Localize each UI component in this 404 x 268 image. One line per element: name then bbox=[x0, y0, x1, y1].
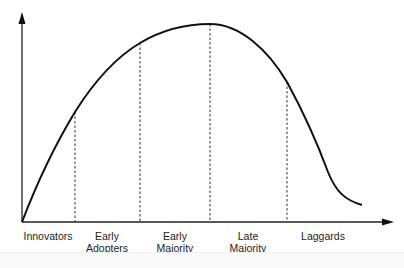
segment-label-late-majority: Late Majority bbox=[213, 230, 283, 254]
segment-label-early-adopters: Early Adopters bbox=[72, 230, 142, 254]
segment-label-laggards: Laggards bbox=[288, 230, 358, 242]
segment-label-early-majority: Early Majority bbox=[140, 230, 210, 254]
segment-label-line: Early bbox=[72, 230, 142, 242]
bottom-margin bbox=[0, 252, 404, 268]
segment-label-line: Early bbox=[140, 230, 210, 242]
x-axis-arrow-icon bbox=[382, 219, 394, 226]
segment-label-line: Late bbox=[213, 230, 283, 242]
segment-label-line: Laggards bbox=[288, 230, 358, 242]
adoption-curve bbox=[22, 24, 362, 222]
y-axis-arrow-icon bbox=[19, 12, 26, 24]
